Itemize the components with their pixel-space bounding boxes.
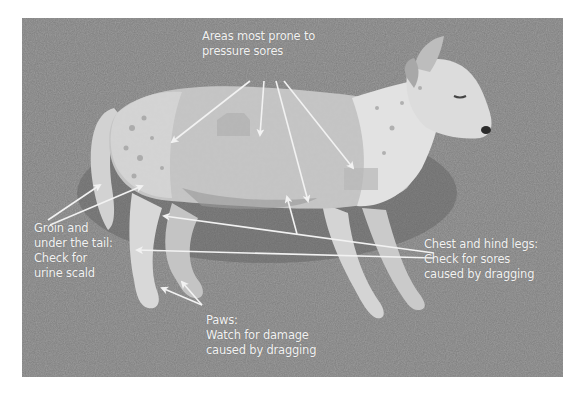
- label-line: Check for sores: [424, 252, 538, 267]
- label-line: Paws:: [206, 313, 316, 328]
- annotated-figure: Areas most prone to pressure sores Groin…: [0, 0, 579, 393]
- label-chest-hind-legs: Chest and hind legs: Check for sores cau…: [424, 237, 538, 282]
- nose: [481, 126, 491, 134]
- label-paws: Paws: Watch for damage caused by draggin…: [206, 313, 316, 358]
- label-line: Areas most prone to: [202, 29, 315, 44]
- label-line: urine scald: [34, 266, 113, 281]
- label-line: Groin and: [34, 221, 113, 236]
- label-line: under the tail:: [34, 236, 113, 251]
- label-line: Check for: [34, 251, 113, 266]
- label-pressure-sores: Areas most prone to pressure sores: [202, 29, 315, 59]
- label-line: caused by dragging: [424, 267, 538, 282]
- label-line: Watch for damage: [206, 328, 316, 343]
- label-line: Chest and hind legs:: [424, 237, 538, 252]
- label-line: caused by dragging: [206, 343, 316, 358]
- label-line: pressure sores: [202, 44, 315, 59]
- pressure-patch-elbow: [344, 168, 378, 190]
- label-groin-tail: Groin and under the tail: Check for urin…: [34, 221, 113, 281]
